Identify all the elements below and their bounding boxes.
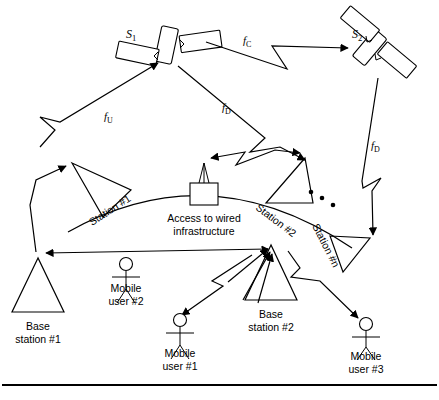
base-station-1-label-line1: Base — [26, 320, 50, 332]
mobile-user-2-label-line2: user #2 — [108, 295, 143, 307]
access-to-station2-link — [211, 150, 300, 165]
base2-to-user3-link — [288, 251, 358, 318]
station-2-label: Station #2 — [254, 201, 299, 239]
crosslink-frequency-label: fC — [243, 34, 251, 49]
mobile-user-2-head — [120, 258, 133, 271]
mobile-user-3-head — [360, 318, 373, 331]
downlink-frequency-label-2: fD — [371, 139, 380, 154]
uplink-frequency-label: fU — [104, 110, 113, 125]
mobile-user-3-label-line1: Mobile — [351, 350, 382, 362]
base2-to-base1-link — [46, 249, 268, 253]
station-n-label: Station #n — [310, 221, 342, 269]
mobile-user-1-head — [174, 314, 187, 327]
satellite-1-panel-left — [116, 41, 160, 66]
access-label-line1: Access to wired — [167, 212, 241, 224]
uplink-path-fu — [40, 63, 158, 147]
base-station-1-antenna — [12, 258, 64, 312]
station-1-label: Station #1 — [87, 192, 133, 228]
mobile-user-1-label-line1: Mobile — [165, 347, 196, 359]
satellite-2-panel-lower — [377, 42, 416, 79]
crosslink-path-fc — [206, 42, 348, 69]
satellite-1-label: S1 — [126, 27, 136, 43]
base-station-2-label-line2: station #2 — [248, 321, 294, 333]
downlink-frequency-label-1: fD — [222, 101, 231, 116]
base2-to-user1-link — [182, 255, 252, 315]
satellite-2 — [340, 6, 416, 79]
satellite-1-panel-right — [179, 30, 222, 53]
station1-to-base1-links — [30, 166, 66, 252]
downlink-path-fd-1 — [178, 66, 305, 160]
downlink-path-fd-2 — [362, 78, 381, 235]
mobile-user-3-label-line2: user #3 — [348, 363, 383, 375]
satellite-1-body — [154, 26, 178, 65]
wired-infrastructure-box — [190, 163, 218, 205]
station-2-antenna — [266, 158, 313, 203]
satellite-network-diagram: S1 S2 fC fU fD — [0, 0, 439, 400]
base-station-1-label-line2: station #1 — [15, 333, 61, 345]
diagram-page: S1 S2 fC fU fD — [0, 0, 439, 400]
mobile-user-2-label-line1: Mobile — [111, 282, 142, 294]
access-box — [190, 183, 218, 205]
mobile-user-1-label-line2: user #1 — [162, 360, 197, 372]
base-station-2-label-line1: Base — [259, 308, 283, 320]
access-label-line2: infrastructure — [173, 225, 234, 237]
